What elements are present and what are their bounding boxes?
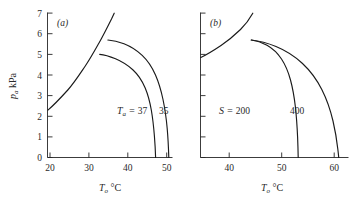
panel-a-curve-label-Ta37: Ta = 37: [117, 105, 148, 118]
y-title-unit: kPa: [7, 72, 18, 88]
panel-a-x-ticks: [50, 153, 167, 158]
panel-a-ytick-0: 0: [37, 153, 42, 163]
panel-a-y-ticks: [48, 13, 53, 157]
panel-a-ytick-2: 2: [37, 112, 42, 122]
panel-b: 40 50 60 (b) To °C S = 200 400: [201, 13, 349, 195]
svg-text:pa kPa: pa kPa: [7, 72, 20, 100]
x-title-unit-b: °C: [272, 182, 283, 193]
panel-a-axes: [48, 13, 173, 158]
x-title-unit: °C: [110, 182, 121, 193]
panel-a-xtick-50: 50: [162, 163, 172, 173]
panel-b-saturation-curve: [201, 13, 253, 57]
panel-a-ytick-6: 6: [37, 29, 42, 39]
panel-b-xtick-50: 50: [277, 163, 287, 173]
panel-b-label: (b): [210, 18, 221, 29]
panel-a-Ta35-curve: [108, 40, 169, 158]
figure-container: 0 1 2 3 4 5 6 7 20 30 40 50 (a) pa kPa: [0, 0, 360, 198]
panel-b-y-ticks: [201, 13, 206, 157]
panel-a-ytick-5: 5: [37, 50, 42, 60]
panel-a-y-axis-title: pa kPa: [7, 72, 20, 100]
panel-b-curve-label-400: 400: [290, 106, 305, 116]
panel-a-xtick-40: 40: [123, 163, 133, 173]
panel-b-x-axis-title: To °C: [261, 182, 284, 195]
panel-a-ytick-4: 4: [37, 71, 42, 81]
panel-a-xtick-20: 20: [45, 163, 55, 173]
panel-a: 0 1 2 3 4 5 6 7 20 30 40 50 (a) pa kPa: [7, 9, 172, 195]
panel-a-xtick-30: 30: [84, 163, 94, 173]
panel-b-curve-label-S200: S = 200: [219, 105, 250, 116]
panel-b-S200-curve: [251, 40, 298, 158]
panel-a-ytick-1: 1: [37, 132, 42, 142]
panel-b-xtick-40: 40: [224, 163, 234, 173]
panel-b-xtick-60: 60: [329, 163, 339, 173]
panel-b-axes: [201, 13, 349, 158]
panel-a-label: (a): [57, 18, 68, 29]
panel-a-curve-label-35: 35: [159, 106, 169, 116]
panel-a-ytick-3: 3: [37, 91, 42, 101]
panel-b-x-ticks: [229, 153, 334, 158]
panel-a-x-axis-title: To °C: [99, 182, 122, 195]
panel-a-ytick-7: 7: [37, 9, 42, 19]
figure-svg: 0 1 2 3 4 5 6 7 20 30 40 50 (a) pa kPa: [0, 0, 360, 198]
panel-b-S400-curve: [251, 40, 338, 158]
